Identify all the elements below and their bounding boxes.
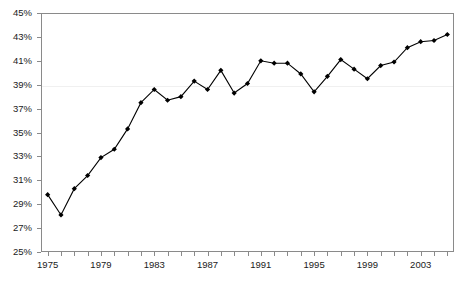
x-axis-tick-mark [327, 252, 328, 256]
x-axis-tick-label: 2003 [410, 259, 431, 270]
x-axis-tick-mark [381, 252, 382, 256]
x-axis-tick-mark [154, 252, 155, 256]
x-axis-tick-mark [61, 252, 62, 256]
data-point-marker [445, 32, 450, 37]
x-axis-tick-label: 1987 [197, 259, 218, 270]
x-axis-tick-mark [287, 252, 288, 256]
x-axis-tick-mark [248, 252, 249, 256]
x-axis-tick-label: 1999 [357, 259, 378, 270]
x-axis-tick-mark [141, 252, 142, 256]
x-axis-tick-mark [447, 252, 448, 256]
data-point-marker [258, 58, 263, 63]
y-axis-tick-label: 25% [13, 247, 32, 257]
x-axis-tick-mark [194, 252, 195, 256]
y-axis-tick-label: 41% [13, 56, 32, 66]
x-axis-tick-label: 1991 [250, 259, 271, 270]
y-axis-labels: 25%27%29%31%33%35%37%39%41%43%45% [0, 0, 38, 284]
x-axis-tick-mark [48, 252, 49, 256]
y-axis-tick-label: 27% [13, 223, 32, 233]
x-axis-tick-mark [341, 252, 342, 256]
x-axis-tick-mark [354, 252, 355, 256]
x-axis-tick-mark [128, 252, 129, 256]
y-axis-tick-label: 35% [13, 128, 32, 138]
y-axis-tick-label: 29% [13, 199, 32, 209]
y-axis-tick-mark [37, 252, 41, 253]
x-axis-tick-mark [314, 252, 315, 256]
x-axis-tick-mark [208, 252, 209, 256]
x-axis-tick-label: 1975 [37, 259, 58, 270]
chart-container: 25%27%29%31%33%35%37%39%41%43%45% 197519… [0, 0, 466, 284]
x-axis-tick-mark [367, 252, 368, 256]
y-axis-tick-label: 37% [13, 104, 32, 114]
x-axis-tick-mark [181, 252, 182, 256]
y-axis-tick-label: 39% [13, 80, 32, 90]
x-axis-tick-mark [101, 252, 102, 256]
x-axis-tick-mark [301, 252, 302, 256]
x-axis-tick-mark [74, 252, 75, 256]
x-axis-tick-mark [234, 252, 235, 256]
series-polyline [48, 35, 448, 215]
y-axis-tick-label: 43% [13, 32, 32, 42]
x-axis-tick-mark [261, 252, 262, 256]
x-axis-tick-mark [88, 252, 89, 256]
x-axis-tick-mark [394, 252, 395, 256]
x-axis-tick-label: 1983 [144, 259, 165, 270]
y-axis-tick-label: 45% [13, 8, 32, 18]
x-axis-tick-mark [114, 252, 115, 256]
data-point-marker [418, 39, 423, 44]
data-point-marker [431, 38, 436, 43]
x-axis-tick-mark [274, 252, 275, 256]
x-axis-tick-mark [434, 252, 435, 256]
x-axis-tick-mark [421, 252, 422, 256]
x-axis-tick-mark [168, 252, 169, 256]
x-axis-tick-mark [221, 252, 222, 256]
data-point-marker [272, 61, 277, 66]
x-axis-tick-mark [407, 252, 408, 256]
y-axis-tick-label: 33% [13, 151, 32, 161]
data-series-line [41, 13, 454, 252]
y-axis-tick-label: 31% [13, 175, 32, 185]
x-axis-tick-label: 1979 [90, 259, 111, 270]
x-axis-tick-label: 1995 [304, 259, 325, 270]
